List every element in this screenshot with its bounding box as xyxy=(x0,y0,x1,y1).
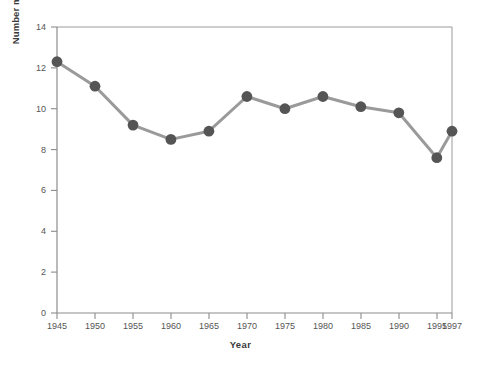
data-point xyxy=(447,126,458,137)
x-tick-label-1960: 1960 xyxy=(151,321,191,331)
data-point xyxy=(204,126,215,137)
x-tick-label-1985: 1985 xyxy=(341,321,381,331)
x-tick-label-1990: 1990 xyxy=(379,321,419,331)
y-axis-ticks xyxy=(51,27,57,313)
data-point xyxy=(166,134,177,145)
y-tick-label-6: 6 xyxy=(24,185,46,195)
x-axis-ticks xyxy=(57,313,452,319)
y-tick-label-2: 2 xyxy=(24,267,46,277)
x-tick-label-1980: 1980 xyxy=(303,321,343,331)
data-point xyxy=(280,103,291,114)
y-tick-label-4: 4 xyxy=(24,226,46,236)
data-point xyxy=(90,81,101,92)
y-tick-label-0: 0 xyxy=(24,308,46,318)
x-axis-title: Year xyxy=(0,339,481,350)
data-point xyxy=(393,107,404,118)
y-tick-label-10: 10 xyxy=(24,104,46,114)
data-point xyxy=(431,152,442,163)
data-point xyxy=(52,56,63,67)
chart-canvas xyxy=(0,0,481,366)
y-tick-label-12: 12 xyxy=(24,63,46,73)
x-tick-label-1950: 1950 xyxy=(75,321,115,331)
data-point xyxy=(318,91,329,102)
data-point xyxy=(355,101,366,112)
y-tick-label-14: 14 xyxy=(24,22,46,32)
marriage-rate-line-chart: 0 2 4 6 8 10 12 14 1945 1950 1955 1960 1… xyxy=(0,0,481,366)
data-markers xyxy=(52,56,458,163)
x-tick-label-1970: 1970 xyxy=(227,321,267,331)
x-tick-label-1965: 1965 xyxy=(189,321,229,331)
x-tick-label-1997: 1997 xyxy=(432,321,472,331)
data-line-series-1 xyxy=(57,62,452,158)
data-point xyxy=(128,120,139,131)
data-point xyxy=(242,91,253,102)
x-tick-label-1955: 1955 xyxy=(113,321,153,331)
y-tick-label-8: 8 xyxy=(24,145,46,155)
x-tick-label-1975: 1975 xyxy=(265,321,305,331)
y-axis-title: Number married (per 1,000 population) xyxy=(6,0,26,70)
plot-frame xyxy=(57,27,452,313)
x-tick-label-1945: 1945 xyxy=(37,321,77,331)
